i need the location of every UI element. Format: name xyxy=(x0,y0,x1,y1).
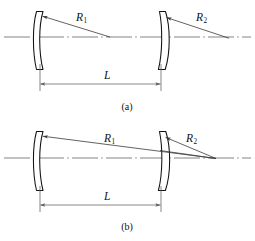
caption-a: (a) xyxy=(121,101,132,113)
dim-label-l-a: L xyxy=(103,69,110,81)
dim-label-l-b: L xyxy=(103,190,110,202)
figure-container: R1 R2 L (a) R1 R2 xyxy=(0,0,255,241)
optical-resonator-diagram: R1 R2 L (a) R1 R2 xyxy=(0,0,255,241)
caption-b: (b) xyxy=(121,221,133,233)
